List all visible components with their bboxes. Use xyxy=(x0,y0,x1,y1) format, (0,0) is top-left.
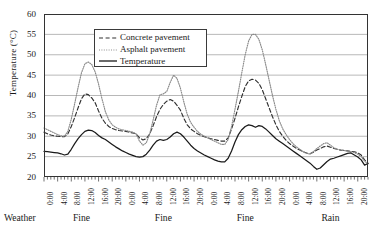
x-tick-label: 12:00 xyxy=(88,188,95,205)
legend-label-temperature: Temperature xyxy=(120,57,165,66)
legend-label-asphalt: Asphalt pavement xyxy=(120,45,185,54)
x-tick-label: 12:00 xyxy=(252,188,259,205)
x-tick-label: 8:00 xyxy=(156,192,163,205)
x-tick-label: 4:00 xyxy=(306,192,313,205)
x-tick-label: 20:00 xyxy=(279,188,286,205)
x-tick-label: 4:00 xyxy=(142,192,149,205)
weather-row: Weather FineFineFineRain xyxy=(0,210,387,232)
legend-line-concrete xyxy=(99,33,117,43)
x-tick-label: 16:00 xyxy=(265,188,272,205)
x-tick-label: 16:00 xyxy=(183,188,190,205)
y-tick-label: 45 xyxy=(14,71,36,80)
x-tick-label: 12:00 xyxy=(170,188,177,205)
legend-label-concrete: Concrete pavement xyxy=(120,33,190,42)
x-axis-tick-labels: 0:004:008:0012:0016:0020:000:004:008:001… xyxy=(44,180,368,208)
legend-item-asphalt: Asphalt pavement xyxy=(99,44,203,56)
weather-row-label: Weather xyxy=(4,212,36,223)
x-tick-label: 8:00 xyxy=(320,192,327,205)
x-tick-label: 4:00 xyxy=(61,192,68,205)
y-tick-label: 50 xyxy=(14,50,36,59)
weather-segment: Fine xyxy=(155,212,172,223)
y-tick-label: 55 xyxy=(14,30,36,39)
legend: Concrete pavement Asphalt pavement Tempe… xyxy=(94,29,207,67)
series-line-concrete-pavement xyxy=(44,79,368,163)
x-tick-label: 12:00 xyxy=(333,188,340,205)
chart-figure: Temperature (°C) 202530354045505560 Conc… xyxy=(0,0,387,235)
y-axis-tick-labels: 202530354045505560 xyxy=(14,0,36,235)
y-tick-label: 60 xyxy=(14,10,36,19)
weather-segment: Fine xyxy=(73,212,90,223)
legend-item-concrete: Concrete pavement xyxy=(99,32,203,44)
x-tick-label: 20:00 xyxy=(361,188,368,205)
legend-item-temperature: Temperature xyxy=(99,56,203,68)
weather-segment: Rain xyxy=(321,212,339,223)
y-tick-label: 35 xyxy=(14,111,36,120)
x-tick-label: 0:00 xyxy=(293,192,300,205)
x-tick-label: 0:00 xyxy=(47,192,54,205)
legend-line-temperature xyxy=(99,56,117,66)
y-tick-label: 20 xyxy=(14,173,36,182)
y-tick-label: 30 xyxy=(14,132,36,141)
y-tick-label: 25 xyxy=(14,152,36,161)
x-tick-label: 8:00 xyxy=(74,192,81,205)
x-tick-label: 0:00 xyxy=(211,192,218,205)
y-tick-label: 40 xyxy=(14,91,36,100)
x-tick-label: 0:00 xyxy=(129,192,136,205)
x-tick-label: 16:00 xyxy=(102,188,109,205)
x-tick-label: 16:00 xyxy=(347,188,354,205)
x-tick-label: 4:00 xyxy=(224,192,231,205)
x-tick-label: 20:00 xyxy=(115,188,122,205)
plot-area: Concrete pavement Asphalt pavement Tempe… xyxy=(44,14,368,177)
weather-segment: Fine xyxy=(237,212,254,223)
legend-line-asphalt xyxy=(99,45,117,55)
x-tick-label: 8:00 xyxy=(238,192,245,205)
x-tick-label: 20:00 xyxy=(197,188,204,205)
